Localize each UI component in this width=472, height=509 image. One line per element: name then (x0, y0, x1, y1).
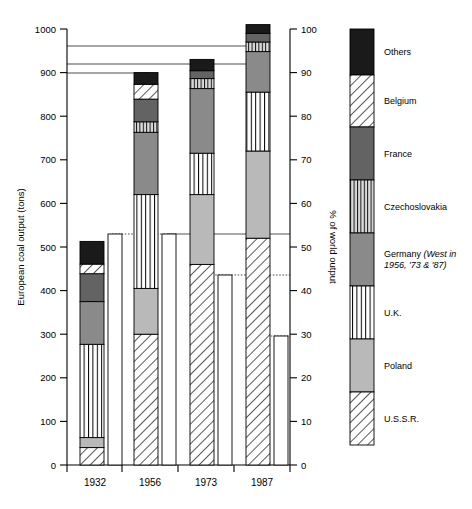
x-tick-1973: 1973 (195, 477, 218, 488)
y2-tick-100: 100 (301, 24, 317, 35)
percent-bar-1973 (218, 275, 232, 465)
bar-stack-1987 (246, 25, 270, 465)
legend-swatch-france (350, 127, 374, 180)
y-tick-0: 0 (51, 460, 56, 471)
y-tick-800: 800 (40, 111, 56, 122)
bar-stack-1973 (190, 59, 214, 465)
segment-ussr-1956 (134, 334, 158, 465)
y2-tick-50: 50 (301, 242, 312, 253)
x-tick-1987: 1987 (251, 477, 274, 488)
segment-ussr-1973 (190, 264, 214, 465)
segment-uk-1973 (190, 153, 214, 194)
segment-belgium-1932 (80, 264, 104, 274)
legend-swatch-czechoslovakia (350, 180, 374, 233)
bar-stack-1956 (134, 73, 158, 465)
segment-france-1956 (134, 99, 158, 122)
coal-output-chart: 1000 900 800 700 600 500 400 300 200 100… (0, 0, 472, 509)
segment-czechoslovakia-1987 (246, 42, 270, 52)
legend-swatch-poland (350, 339, 374, 392)
y2-tick-80: 80 (301, 111, 312, 122)
legend-label-ussr: U.S.S.R. (384, 414, 419, 424)
segment-france-1987 (246, 33, 270, 42)
segment-uk-1932 (80, 344, 104, 437)
y2-tick-40: 40 (301, 285, 312, 296)
legend-label-germany-line2: 1956, '73 & '87) (384, 260, 446, 270)
segment-belgium-1956 (134, 84, 158, 99)
segment-others-1987 (246, 25, 270, 34)
segment-germany-1973 (190, 89, 214, 154)
legend-label-germany: Germany (West in (384, 249, 456, 259)
segment-germany-1987 (246, 52, 270, 93)
y2-tick-70: 70 (301, 154, 312, 165)
segment-france-1973 (190, 71, 214, 79)
segment-germany-1956 (134, 132, 158, 194)
legend-swatch-others (350, 29, 374, 75)
legend-swatch-uk (350, 286, 374, 339)
y-tick-900: 900 (40, 67, 56, 78)
segment-uk-1987 (246, 92, 270, 151)
legend-label-czechoslovakia: Czechoslovakia (384, 202, 447, 212)
percent-bar-1932 (108, 234, 122, 465)
y2-tick-60: 60 (301, 198, 312, 209)
x-tick-1956: 1956 (139, 477, 162, 488)
y-tick-400: 400 (40, 285, 56, 296)
segment-poland-1932 (80, 438, 104, 448)
y2-tick-90: 90 (301, 67, 312, 78)
segment-germany-1932 (80, 302, 104, 345)
y2-tick-0: 0 (301, 460, 306, 471)
legend-swatch-belgium (350, 75, 374, 127)
y-tick-300: 300 (40, 329, 56, 340)
segment-czechoslovakia-1956 (134, 122, 158, 133)
segment-france-1932 (80, 274, 104, 302)
y-axis-title-left: European coal output (tons) (15, 188, 26, 305)
segment-others-1932 (80, 241, 104, 264)
x-tick-1932: 1932 (84, 477, 107, 488)
segment-ussr-1932 (80, 448, 104, 465)
segment-poland-1956 (134, 288, 158, 334)
percent-bar-1956 (162, 234, 176, 465)
segment-poland-1987 (246, 151, 270, 238)
legend-label-belgium: Belgium (384, 96, 417, 106)
segment-others-1973 (190, 59, 214, 70)
legend-label-poland: Poland (384, 361, 412, 371)
segment-uk-1956 (134, 195, 158, 289)
segment-others-1956 (134, 73, 158, 85)
bar-stack-1932 (80, 241, 104, 465)
y2-tick-30: 30 (301, 329, 312, 340)
legend-swatch-germany (350, 233, 374, 286)
y-tick-700: 700 (40, 154, 56, 165)
y-tick-200: 200 (40, 372, 56, 383)
y-axis-title-right: % of world output (328, 210, 339, 284)
legend-label-uk: U.K. (384, 308, 402, 318)
legend-label-france: France (384, 149, 412, 159)
legend-label-others: Others (384, 47, 412, 57)
segment-czechoslovakia-1973 (190, 79, 214, 89)
segment-poland-1973 (190, 195, 214, 265)
y-tick-500: 500 (40, 242, 56, 253)
y2-tick-10: 10 (301, 416, 312, 427)
legend-swatch-ussr (350, 392, 374, 445)
y-tick-1000: 1000 (35, 24, 56, 35)
segment-ussr-1987 (246, 238, 270, 465)
y2-tick-20: 20 (301, 372, 312, 383)
y-tick-600: 600 (40, 198, 56, 209)
y-tick-100: 100 (40, 416, 56, 427)
percent-bar-1987 (274, 336, 288, 465)
